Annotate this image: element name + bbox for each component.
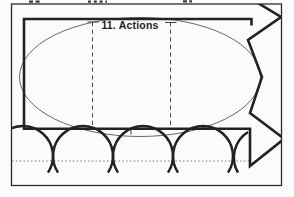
coil-loop-4 bbox=[173, 126, 233, 173]
callout-ellipse bbox=[20, 18, 261, 137]
coil-loop-3 bbox=[113, 126, 173, 173]
coil-loop-1 bbox=[0, 126, 53, 173]
coil-loop-5-partial bbox=[234, 132, 248, 173]
dashed-guides bbox=[88, 22, 177, 135]
section-label: 11. Actions bbox=[101, 19, 158, 31]
coil-loop-2 bbox=[53, 126, 113, 173]
coil-loops bbox=[0, 126, 248, 173]
starburst-outline bbox=[248, 0, 283, 138]
thick-panel-outline bbox=[24, 19, 282, 166]
diagram-canvas: 11. Actions bbox=[0, 0, 294, 197]
frame-content: 11. Actions bbox=[0, 0, 283, 173]
scanned-page: 11. Actions bbox=[0, 0, 294, 197]
